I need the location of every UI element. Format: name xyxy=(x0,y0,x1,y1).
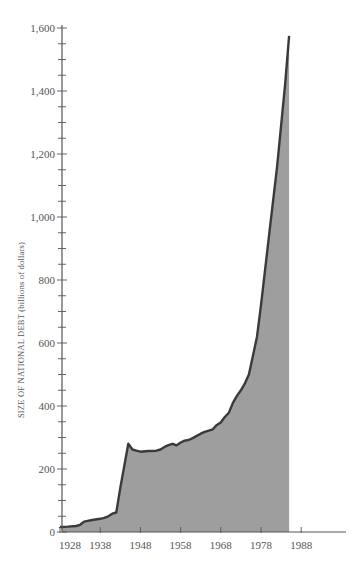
y-tick-label: 1,600 xyxy=(30,22,55,34)
x-tick-label: 1978 xyxy=(250,539,273,551)
national-debt-chart: 02004006008001,0001,2001,4001,6001928193… xyxy=(0,0,361,574)
y-tick-label: 1,400 xyxy=(30,85,55,97)
debt-area xyxy=(60,36,289,532)
y-tick-label: 1,200 xyxy=(30,148,55,160)
y-tick-label: 200 xyxy=(39,463,56,475)
x-tick-label: 1968 xyxy=(210,539,233,551)
y-tick-label: 0 xyxy=(50,526,56,538)
y-tick-label: 400 xyxy=(39,400,56,412)
x-tick-label: 1938 xyxy=(89,539,112,551)
x-tick-label: 1948 xyxy=(129,539,152,551)
y-tick-label: 800 xyxy=(39,274,56,286)
y-tick-label: 600 xyxy=(39,337,56,349)
x-tick-label: 1988 xyxy=(290,539,313,551)
debt-area-fill xyxy=(60,36,289,532)
x-tick-label: 1928 xyxy=(59,539,82,551)
x-tick-label: 1958 xyxy=(170,539,193,551)
y-axis-title: SIZE OF NATIONAL DEBT (billions of dolla… xyxy=(16,242,26,418)
y-tick-label: 1,000 xyxy=(30,211,55,223)
